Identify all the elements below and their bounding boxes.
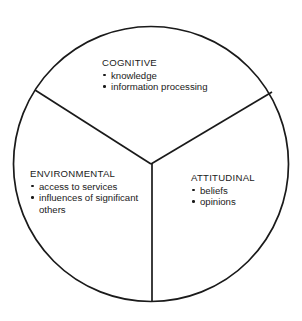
bullet-dot-icon <box>192 189 195 192</box>
sector-circle-graphic <box>0 0 302 321</box>
list-item-label: influences of significant others <box>39 192 148 215</box>
list-item: information processing <box>102 81 252 93</box>
sector-cognitive-title: COGNITIVE <box>102 57 252 69</box>
list-item-label: knowledge <box>111 70 252 82</box>
list-item: beliefs <box>191 185 286 197</box>
sector-cognitive: COGNITIVE knowledge information processi… <box>102 57 252 93</box>
list-item-label: access to services <box>39 181 148 193</box>
list-item: opinions <box>191 196 286 208</box>
sector-attitudinal-title: ATTITUDINAL <box>191 172 286 184</box>
list-item-label: information processing <box>111 81 252 93</box>
sector-cognitive-list: knowledge information processing <box>102 70 252 93</box>
list-item: access to services <box>30 181 148 193</box>
sector-environmental-title: ENVIRONMENTAL <box>30 168 148 180</box>
bullet-dot-icon <box>192 200 195 203</box>
sector-attitudinal: ATTITUDINAL beliefs opinions <box>191 172 286 208</box>
bullet-dot-icon <box>31 196 34 199</box>
bullet-dot-icon <box>31 185 34 188</box>
bullet-dot-icon <box>103 74 106 77</box>
sector-environmental: ENVIRONMENTAL access to services influen… <box>30 168 148 215</box>
list-item-label: beliefs <box>200 185 286 197</box>
bullet-dot-icon <box>103 85 106 88</box>
sector-attitudinal-list: beliefs opinions <box>191 185 286 208</box>
diagram-page: COGNITIVE knowledge information processi… <box>0 0 302 321</box>
list-item-label: opinions <box>200 196 286 208</box>
list-item: knowledge <box>102 70 252 82</box>
sector-environmental-list: access to services influences of signifi… <box>30 181 148 216</box>
list-item: influences of significant others <box>30 192 148 215</box>
